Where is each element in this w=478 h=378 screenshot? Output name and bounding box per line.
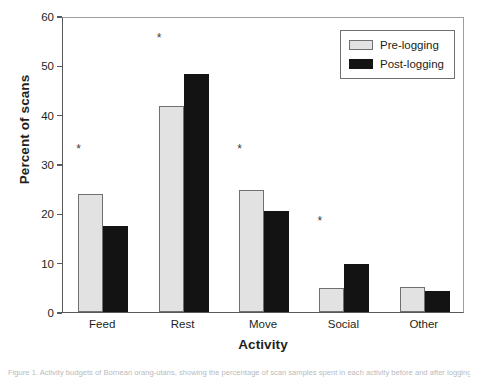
legend-swatch-pre-logging	[349, 40, 373, 50]
bar-move-pre-logging	[239, 190, 264, 312]
significance-asterisk-move: *	[233, 143, 247, 155]
y-tick-label: 50	[41, 58, 54, 74]
bar-social-post-logging	[344, 264, 369, 312]
bar-social-pre-logging	[319, 288, 344, 312]
y-tick-label: 10	[41, 256, 54, 272]
bar-rest-post-logging	[184, 74, 209, 312]
y-tick-label: 20	[41, 206, 54, 222]
legend-label-post-logging: Post-logging	[380, 57, 444, 71]
legend-item-pre-logging: Pre-logging	[349, 37, 444, 53]
x-tick-label-feed: Feed	[62, 316, 142, 332]
legend-item-post-logging: Post-logging	[349, 56, 444, 72]
bar-feed-post-logging	[103, 226, 128, 312]
y-tick-label: 60	[41, 9, 54, 25]
y-tick-label: 40	[41, 108, 54, 124]
legend-swatch-post-logging	[349, 59, 373, 69]
bar-other-post-logging	[425, 291, 450, 312]
x-tick-label-other: Other	[384, 316, 464, 332]
y-tick-label: 30	[41, 157, 54, 173]
bar-chart-figure: 0102030405060 Percent of scans **** Feed…	[0, 0, 478, 378]
significance-asterisk-rest: *	[152, 32, 166, 44]
bar-rest-pre-logging	[159, 106, 184, 312]
bar-move-post-logging	[264, 211, 289, 312]
significance-asterisk-social: *	[313, 215, 327, 227]
bar-other-pre-logging	[400, 287, 425, 312]
x-tick-label-rest: Rest	[142, 316, 222, 332]
legend-label-pre-logging: Pre-logging	[380, 38, 439, 52]
legend: Pre-loggingPost-logging	[340, 30, 455, 79]
x-axis: FeedRestMoveSocialOther	[62, 316, 464, 338]
figure-caption: Figure 1. Activity budgets of Bornean or…	[8, 368, 470, 377]
x-axis-title: Activity	[62, 337, 464, 352]
significance-asterisk-feed: *	[72, 143, 86, 155]
bar-feed-pre-logging	[78, 194, 103, 312]
x-tick-label-social: Social	[303, 316, 383, 332]
y-tick-label: 0	[48, 305, 54, 321]
x-tick-label-move: Move	[223, 316, 303, 332]
y-axis-title: Percent of scans	[17, 30, 32, 230]
